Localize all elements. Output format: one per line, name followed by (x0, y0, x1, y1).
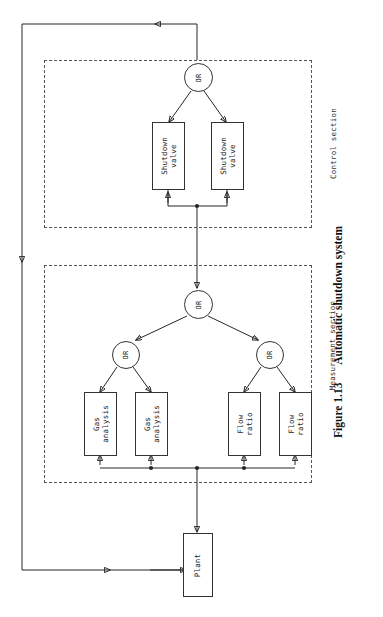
figure-caption-text: Automatic shutdown system (332, 226, 344, 365)
block-label: Flow ratio (286, 412, 304, 436)
figure-automatic-shutdown-system: Control section Measurement section OR O… (0, 0, 383, 617)
block-label: Gas analysis (92, 405, 110, 443)
section-label-control: Control section (329, 89, 338, 199)
block-flow-ratio-1: Flow ratio (228, 392, 261, 456)
block-label: Gas analysis (143, 405, 161, 443)
figure-caption-number: Figure 1.13 (332, 383, 344, 438)
or-gate-measurement-right: OR (256, 341, 284, 369)
or-gate-label: OR (266, 350, 274, 359)
block-label: Shutdown valve (219, 137, 237, 175)
block-plant: Plant (183, 533, 213, 597)
or-gate-label: OR (195, 73, 203, 82)
block-shutdown-valve-1: Shutdown valve (152, 122, 185, 190)
figure-caption: Figure 1.13 Automatic shutdown system (328, 217, 346, 447)
block-gas-analysis-2: Gas analysis (135, 392, 168, 456)
block-flow-ratio-2: Flow ratio (279, 392, 312, 456)
or-gate-control-top: OR (184, 63, 213, 92)
or-gate-label: OR (195, 300, 203, 309)
block-label: Plant (193, 553, 202, 577)
block-label: Shutdown valve (160, 137, 178, 175)
or-gate-measurement-left: OR (112, 341, 140, 369)
block-label: Flow ratio (235, 412, 253, 436)
block-gas-analysis-1: Gas analysis (84, 392, 117, 456)
or-gate-measurement-top: OR (184, 290, 213, 319)
block-shutdown-valve-2: Shutdown valve (211, 122, 244, 190)
or-gate-label: OR (122, 350, 130, 359)
